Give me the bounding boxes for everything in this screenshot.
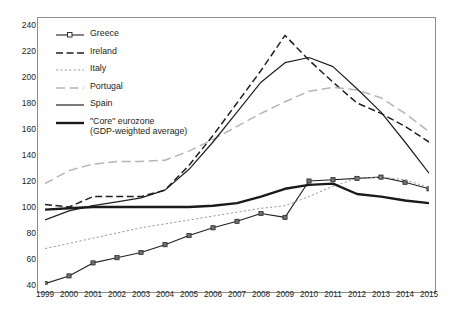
legend-label: "Core" eurozone [85, 116, 187, 127]
x-tick-label: 2005 [180, 291, 198, 299]
legend-item-coreeurozone[interactable]: "Core" eurozone(GDP-weighted average) [55, 116, 230, 142]
x-tick-label: 2001 [84, 291, 102, 299]
x-tick-label: 2000 [60, 291, 78, 299]
legend-label: Ireland [85, 46, 117, 57]
chart-root: 406080100120140160180200220240 199920002… [0, 0, 454, 321]
y-tick-label: 140 [10, 151, 36, 160]
legend-label: Portugal [85, 81, 123, 92]
data-point-marker [283, 215, 287, 219]
y-tick-label: 220 [10, 47, 36, 56]
x-tick-label: 2010 [300, 291, 318, 299]
y-tick-label: 100 [10, 203, 36, 212]
x-tick-label: 2013 [372, 291, 390, 299]
y-tick-label: 60 [10, 255, 36, 264]
x-tick-label: 1999 [36, 291, 54, 299]
data-point-marker [91, 261, 95, 265]
legend-swatch-icon [55, 99, 85, 111]
y-tick-label: 240 [10, 21, 36, 30]
data-point-marker [67, 274, 71, 278]
y-tick-label: 200 [10, 73, 36, 82]
legend-label: Italy [85, 63, 106, 74]
legend-swatch-icon [55, 82, 85, 94]
legend-label: Spain [85, 98, 113, 109]
data-point-marker [259, 211, 263, 215]
y-axis-tick-labels: 406080100120140160180200220240 [8, 25, 36, 285]
x-tick-label: 2014 [396, 291, 414, 299]
series-line-greece [45, 177, 429, 284]
legend-label: Greece [85, 28, 119, 39]
x-tick-label: 2003 [132, 291, 150, 299]
data-point-marker [235, 219, 239, 223]
legend-swatch-icon [55, 64, 85, 76]
x-tick-label: 2015 [420, 291, 438, 299]
legend-item-ireland[interactable]: Ireland [55, 46, 230, 64]
x-tick-label: 2009 [276, 291, 294, 299]
data-point-marker [403, 180, 407, 184]
data-point-marker [331, 178, 335, 182]
data-point-marker [307, 179, 311, 183]
y-tick-label: 160 [10, 125, 36, 134]
series-line-coreeurozone [45, 184, 429, 210]
x-tick-label: 2012 [348, 291, 366, 299]
data-point-marker [115, 256, 119, 260]
data-point-marker [187, 234, 191, 238]
legend-item-portugal[interactable]: Portugal [55, 81, 230, 99]
data-point-marker [45, 282, 47, 285]
x-tick-label: 2002 [108, 291, 126, 299]
legend-item-italy[interactable]: Italy [55, 63, 230, 81]
x-tick-label: 2006 [204, 291, 222, 299]
x-tick-label: 2007 [228, 291, 246, 299]
chart-legend: GreeceIrelandItalyPortugalSpain"Core" eu… [55, 28, 230, 142]
legend-swatch-icon [55, 47, 85, 59]
data-point-marker [139, 250, 143, 254]
data-point-marker [211, 226, 215, 230]
x-tick-label: 2011 [324, 291, 342, 299]
y-tick-label: 40 [10, 281, 36, 290]
data-point-marker [163, 243, 167, 247]
legend-sublabel: (GDP-weighted average) [85, 126, 187, 137]
y-tick-label: 80 [10, 229, 36, 238]
x-tick-label: 2008 [252, 291, 270, 299]
y-tick-label: 180 [10, 99, 36, 108]
y-tick-label: 120 [10, 177, 36, 186]
x-tick-label: 2004 [156, 291, 174, 299]
legend-swatch-icon [55, 117, 85, 129]
x-axis-tick-labels: 1999200020012002200320042005200620072008… [45, 291, 429, 305]
series-line-italy [45, 177, 429, 249]
legend-item-spain[interactable]: Spain [55, 98, 230, 116]
legend-item-greece[interactable]: Greece [55, 28, 230, 46]
legend-swatch-icon [55, 29, 85, 41]
